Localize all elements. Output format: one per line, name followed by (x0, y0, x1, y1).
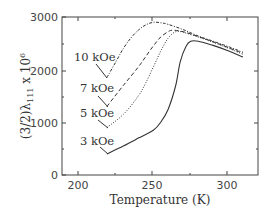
annotation-pointer (100, 147, 108, 154)
x-tick-label: 300 (217, 179, 238, 192)
y-tick-label: 1000 (30, 117, 58, 130)
svg-text:(3/2)λ111 x 106: (3/2)λ111 x 106 (18, 53, 35, 139)
y-axis (62, 17, 258, 175)
annotation-pointer (96, 64, 107, 78)
x-tick-label: 200 (68, 179, 89, 192)
y-tick-label: 0 (51, 169, 58, 182)
annotation-3koe: 3 kOe (80, 134, 114, 148)
plot-frame (62, 17, 258, 175)
y-tick-label: 2000 (30, 65, 58, 78)
annotation-5koe: 5 kOe (80, 106, 114, 120)
annotation-10koe: 10 kOe (74, 50, 116, 64)
series-5koe (107, 31, 243, 127)
series-layer (107, 22, 243, 154)
chart: 200 250 300 0 1000 2000 3000 Temperature… (0, 0, 269, 210)
y-tick-label: 3000 (30, 11, 58, 24)
x-axis (78, 17, 227, 175)
y-axis-label: (3/2)λ111 x 106 (18, 53, 35, 139)
annotation-7koe: 7 kOe (80, 81, 114, 95)
x-axis-label: Temperature (K) (110, 193, 211, 207)
annotation-pointer (98, 120, 108, 128)
series-7koe (107, 30, 243, 106)
x-tick-label: 250 (142, 179, 163, 192)
series-3koe (107, 41, 243, 154)
